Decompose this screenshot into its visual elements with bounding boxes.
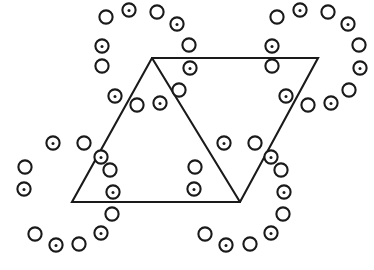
rotation-node-dotted — [187, 182, 200, 195]
node-center-dot-icon — [270, 156, 273, 159]
rotation-node-plain — [188, 160, 201, 173]
node-center-dot-icon — [101, 45, 104, 48]
node-ring-icon — [321, 5, 334, 18]
node-ring-icon — [342, 83, 355, 96]
rotation-node-plain — [321, 5, 334, 18]
rotation-node-dotted — [17, 182, 30, 195]
node-ring-icon — [130, 98, 143, 111]
rotation-node-dotted — [170, 17, 183, 30]
node-ring-icon — [248, 136, 261, 149]
node-center-dot-icon — [176, 23, 179, 26]
node-center-dot-icon — [55, 244, 58, 247]
rotation-node-plain — [198, 227, 211, 240]
rotation-node-dotted — [265, 39, 278, 52]
node-center-dot-icon — [100, 156, 103, 159]
node-ring-icon — [95, 59, 108, 72]
rotation-node-plain — [274, 163, 287, 176]
rotation-node-plain — [265, 59, 278, 72]
rotation-node-plain — [276, 207, 289, 220]
rotation-node-plain — [72, 237, 85, 250]
rotation-node-dotted — [264, 226, 277, 239]
node-ring-icon — [182, 38, 195, 51]
node-ring-icon — [270, 10, 283, 23]
rotation-nodes-layer — [17, 3, 366, 251]
node-ring-icon — [72, 237, 85, 250]
geometric-figure — [0, 0, 374, 270]
figure-canvas — [0, 0, 374, 270]
node-ring-icon — [276, 207, 289, 220]
rotation-node-dotted — [106, 185, 119, 198]
rotation-node-plain — [301, 98, 314, 111]
node-ring-icon — [28, 227, 41, 240]
node-ring-icon — [99, 10, 112, 23]
node-center-dot-icon — [114, 95, 117, 98]
node-ring-icon — [77, 136, 90, 149]
node-center-dot-icon — [193, 188, 196, 191]
rotation-node-plain — [95, 59, 108, 72]
rotation-node-dotted — [49, 238, 62, 251]
rotation-node-dotted — [46, 136, 59, 149]
rotation-node-dotted — [264, 150, 277, 163]
rotation-node-dotted — [122, 3, 135, 16]
rotation-node-dotted — [279, 89, 292, 102]
node-ring-icon — [150, 5, 163, 18]
rotation-node-plain — [182, 38, 195, 51]
node-ring-icon — [105, 207, 118, 220]
node-center-dot-icon — [112, 191, 115, 194]
node-ring-icon — [243, 237, 256, 250]
rotation-node-plain — [243, 237, 256, 250]
rotation-node-dotted — [324, 96, 337, 109]
rotation-node-plain — [77, 136, 90, 149]
rotation-node-dotted — [217, 136, 230, 149]
node-ring-icon — [172, 83, 185, 96]
node-ring-icon — [103, 163, 116, 176]
node-center-dot-icon — [271, 45, 274, 48]
diagonal-divider — [152, 58, 240, 202]
rotation-node-dotted — [277, 185, 290, 198]
node-ring-icon — [265, 59, 278, 72]
node-center-dot-icon — [100, 232, 103, 235]
rotation-node-plain — [150, 5, 163, 18]
rotation-node-dotted — [353, 61, 366, 74]
node-ring-icon — [188, 160, 201, 173]
node-center-dot-icon — [52, 142, 55, 145]
node-center-dot-icon — [223, 142, 226, 145]
node-center-dot-icon — [23, 188, 26, 191]
node-center-dot-icon — [225, 244, 228, 247]
node-center-dot-icon — [283, 191, 286, 194]
lattice-lines-layer — [72, 58, 318, 202]
node-center-dot-icon — [359, 67, 362, 70]
node-center-dot-icon — [347, 23, 350, 26]
node-center-dot-icon — [299, 9, 302, 12]
rotation-node-dotted — [94, 226, 107, 239]
node-center-dot-icon — [189, 67, 192, 70]
rotation-node-dotted — [94, 150, 107, 163]
rotation-node-plain — [28, 227, 41, 240]
node-ring-icon — [352, 38, 365, 51]
rotation-node-dotted — [219, 238, 232, 251]
rotation-node-dotted — [293, 3, 306, 16]
rotation-node-plain — [270, 10, 283, 23]
node-center-dot-icon — [285, 95, 288, 98]
rotation-node-plain — [18, 160, 31, 173]
rotation-node-dotted — [95, 39, 108, 52]
rotation-node-plain — [130, 98, 143, 111]
rotation-node-dotted — [153, 96, 166, 109]
rotation-node-plain — [172, 83, 185, 96]
node-ring-icon — [274, 163, 287, 176]
rotation-node-plain — [103, 163, 116, 176]
node-center-dot-icon — [270, 232, 273, 235]
node-center-dot-icon — [128, 9, 131, 12]
rotation-node-plain — [248, 136, 261, 149]
rotation-node-dotted — [341, 17, 354, 30]
node-ring-icon — [18, 160, 31, 173]
rotation-node-plain — [352, 38, 365, 51]
rotation-node-dotted — [108, 89, 121, 102]
node-center-dot-icon — [159, 102, 162, 105]
rotation-node-plain — [342, 83, 355, 96]
node-center-dot-icon — [330, 102, 333, 105]
node-ring-icon — [301, 98, 314, 111]
node-ring-icon — [198, 227, 211, 240]
rotation-node-dotted — [183, 61, 196, 74]
rotation-node-plain — [99, 10, 112, 23]
